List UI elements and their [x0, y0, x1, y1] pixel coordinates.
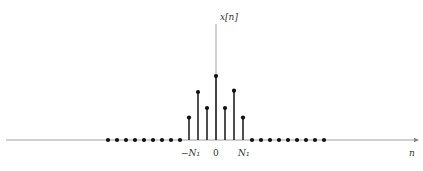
sample-point — [214, 74, 218, 78]
sample-point — [223, 106, 227, 110]
sample-point — [106, 138, 110, 142]
tick-label-n1: N₁ — [237, 148, 249, 158]
sample-point — [133, 138, 137, 142]
stems — [106, 74, 326, 142]
sample-point — [295, 138, 299, 142]
sample-point — [286, 138, 290, 142]
sample-point — [196, 90, 200, 94]
tick-label-neg-n1: −N₁ — [181, 148, 200, 158]
sample-point — [259, 138, 263, 142]
sample-point — [178, 138, 182, 142]
sample-point — [187, 116, 191, 120]
sample-point — [241, 116, 245, 120]
sample-point — [160, 138, 164, 142]
sample-point — [322, 138, 326, 142]
sample-point — [232, 89, 236, 93]
sample-point — [313, 138, 317, 142]
sample-point — [151, 138, 155, 142]
sample-point — [205, 106, 209, 110]
signal-diagram: x[n] n −N₁ 0 N₁ — [0, 0, 423, 171]
sample-point — [169, 138, 173, 142]
x-axis-label: n — [409, 148, 415, 158]
sample-point — [142, 138, 146, 142]
sample-point — [268, 138, 272, 142]
sample-point — [115, 138, 119, 142]
tick-label-zero: 0 — [213, 148, 219, 158]
sample-point — [304, 138, 308, 142]
sample-point — [277, 138, 281, 142]
sample-point — [124, 138, 128, 142]
sample-point — [250, 138, 254, 142]
stem-plot: x[n] n −N₁ 0 N₁ — [0, 0, 423, 171]
y-axis-label: x[n] — [220, 12, 238, 22]
